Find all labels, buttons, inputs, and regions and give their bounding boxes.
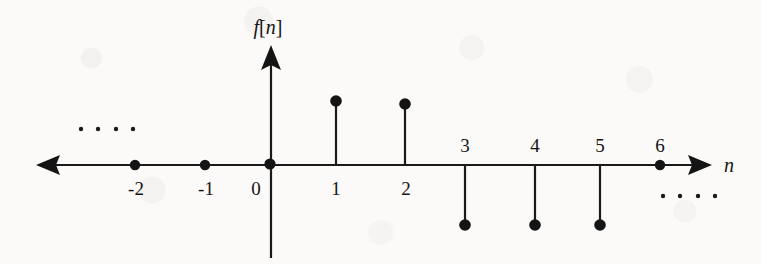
tick-label-n-0: 0 bbox=[251, 179, 261, 198]
stem-plot-canvas bbox=[0, 0, 761, 264]
tick-label-n-5: 5 bbox=[595, 136, 605, 155]
x-axis-label: n bbox=[724, 155, 734, 175]
discrete-signal-figure: f[n] n -2 -1 0 1 2 3 4 5 6 bbox=[0, 0, 761, 264]
y-axis-label-index: n bbox=[266, 16, 276, 38]
sample-dot-n-4 bbox=[529, 219, 541, 231]
tick-label-n-4: 4 bbox=[530, 136, 540, 155]
sample-dot-n-minus-1 bbox=[200, 160, 210, 170]
tick-label-n-3: 3 bbox=[460, 136, 470, 155]
y-axis-label: f[n] bbox=[254, 17, 283, 37]
sample-dot-n-minus-2 bbox=[130, 160, 140, 170]
left-ellipsis-icon bbox=[79, 127, 135, 131]
sample-dot-n-2 bbox=[399, 98, 411, 110]
tick-label-n-minus-2: -2 bbox=[128, 179, 144, 198]
x-axis-label-text: n bbox=[724, 154, 734, 176]
tick-label-n-minus-1: -1 bbox=[198, 179, 214, 198]
right-ellipsis-icon bbox=[661, 194, 717, 198]
sample-dot-n-3 bbox=[459, 219, 471, 231]
y-axis-label-close-bracket: ] bbox=[276, 16, 283, 38]
sample-dot-n-5 bbox=[594, 219, 606, 231]
sample-dot-n-6 bbox=[655, 160, 665, 170]
sample-dot-n-0 bbox=[264, 158, 275, 169]
sample-dot-n-1 bbox=[330, 95, 342, 107]
tick-label-n-6: 6 bbox=[655, 136, 665, 155]
tick-label-n-2: 2 bbox=[401, 179, 411, 198]
tick-label-n-1: 1 bbox=[331, 179, 341, 198]
